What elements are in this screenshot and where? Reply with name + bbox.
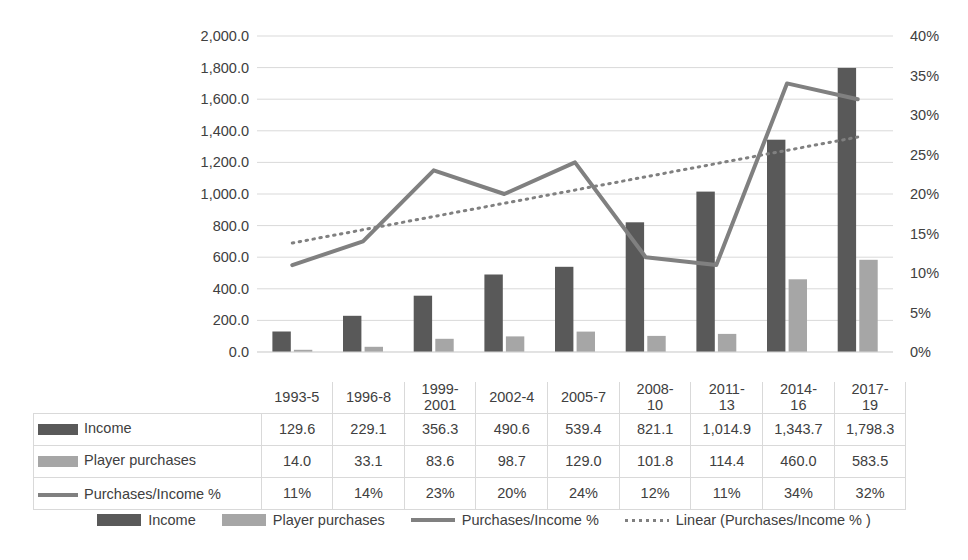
table-cell-value: 33.1 — [333, 446, 405, 478]
category-label: 2017-19 — [835, 382, 906, 413]
bar-income — [555, 267, 573, 352]
legend-item-label: Linear (Purchases/Income % ) — [676, 512, 871, 528]
bar-income — [272, 332, 290, 353]
bars-player-purchases — [294, 260, 878, 352]
bar-player-purchases — [859, 260, 877, 352]
legend-item: Player purchases — [222, 512, 385, 528]
bar-income — [838, 68, 856, 352]
table-cell-value: 129.0 — [548, 446, 620, 478]
category-label-line2: 2001 — [405, 398, 476, 414]
legend-item: Income — [97, 512, 196, 528]
category-label: 1996-8 — [333, 390, 404, 406]
table-cell-value: 23% — [404, 478, 476, 510]
legend-item-label: Income — [148, 512, 196, 528]
legend-swatch-income — [97, 514, 141, 526]
y-axis-left-tick: 0.0 — [169, 345, 249, 360]
category-label-line1: 1996-8 — [346, 389, 391, 405]
table-cell-value: 32% — [834, 478, 906, 510]
bar-player-purchases — [435, 339, 453, 352]
bars-income — [272, 68, 856, 352]
y-axis-right-tick: 5% — [910, 306, 968, 321]
table-cell-value: 98.7 — [476, 446, 548, 478]
category-label-line1: 2011- — [709, 381, 745, 397]
y-axis-left-tick: 200.0 — [169, 313, 249, 328]
table-cell-value: 229.1 — [333, 414, 405, 446]
table-cell-value: 114.4 — [691, 446, 763, 478]
table-header-row: 1993-51996-81999-20012002-42005-72008-10… — [34, 382, 906, 414]
table-header-corner — [34, 382, 262, 414]
table-header-cell-category: 2011-13 — [691, 382, 763, 414]
table-cell-value: 20% — [476, 478, 548, 510]
table-cell-value: 83.6 — [404, 446, 476, 478]
chart-canvas — [0, 0, 968, 380]
table-cell-value: 1,014.9 — [691, 414, 763, 446]
table-header-cell-category: 1993-5 — [262, 382, 333, 414]
bar-income — [484, 275, 502, 353]
table-row-label-text: Income — [84, 421, 132, 437]
bar-income — [414, 296, 432, 352]
category-label-line1: 1993-5 — [274, 389, 319, 405]
category-label-line2: 10 — [620, 398, 691, 414]
legend-item-label: Purchases/Income % — [462, 512, 599, 528]
table-cell-value: 24% — [548, 478, 620, 510]
category-label: 2011-13 — [691, 382, 762, 413]
table-cell-value: 14% — [333, 478, 405, 510]
category-label-line2: 13 — [691, 398, 762, 414]
chart-plot-area: 0.0200.0400.0600.0800.01,000.01,200.01,4… — [0, 0, 968, 380]
swatch-ratio-line — [38, 493, 78, 497]
y-axis-left-tick: 1,000.0 — [169, 187, 249, 202]
table-cell-value: 129.6 — [262, 414, 333, 446]
category-label-line1: 2008- — [637, 381, 674, 397]
table-row-label: Income — [38, 421, 132, 437]
table-row-label-text: Purchases/Income % — [84, 487, 221, 503]
y-axis-right-tick: 35% — [910, 69, 968, 84]
legend-swatch-ratio-line — [411, 518, 455, 522]
table-row-label-text: Player purchases — [84, 453, 196, 469]
legend-item-label: Player purchases — [273, 512, 385, 528]
legend-item: Purchases/Income % — [411, 512, 599, 528]
table-header-cell-category: 2017-19 — [834, 382, 906, 414]
category-label: 2002-4 — [476, 390, 547, 406]
bar-income — [767, 140, 785, 352]
y-axis-left-tick: 800.0 — [169, 219, 249, 234]
category-label: 2008-10 — [620, 382, 691, 413]
table-cell-value: 12% — [619, 478, 691, 510]
category-label-line1: 2014- — [780, 381, 817, 397]
y-axis-right-tick: 0% — [910, 345, 968, 360]
table-row-label-cell: Purchases/Income % — [34, 478, 262, 510]
table-cell-value: 34% — [763, 478, 835, 510]
table-row-label: Player purchases — [38, 453, 196, 469]
category-label-line1: 2017- — [852, 381, 889, 397]
table-header-cell-category: 2002-4 — [476, 382, 548, 414]
category-label: 1999-2001 — [405, 382, 476, 413]
y-axis-left-tick: 1,600.0 — [169, 92, 249, 107]
table-header-cell-category: 1999-2001 — [404, 382, 476, 414]
table-row: Player purchases14.033.183.698.7129.0101… — [34, 446, 906, 478]
y-axis-left-tick: 1,200.0 — [169, 155, 249, 170]
category-label: 2014-16 — [763, 382, 834, 413]
swatch-income — [38, 424, 78, 435]
category-label-line2: 19 — [835, 398, 906, 414]
table-cell-value: 1,343.7 — [763, 414, 835, 446]
y-axis-left-tick: 600.0 — [169, 250, 249, 265]
y-axis-left-tick: 2,000.0 — [169, 29, 249, 44]
category-label-line1: 2002-4 — [489, 389, 534, 405]
bar-player-purchases — [506, 336, 524, 352]
table-cell-value: 11% — [262, 478, 333, 510]
y-axis-right-tick: 30% — [910, 108, 968, 123]
y-axis-left-tick: 1,400.0 — [169, 124, 249, 139]
table-cell-value: 1,798.3 — [834, 414, 906, 446]
table-cell-value: 490.6 — [476, 414, 548, 446]
bar-player-purchases — [647, 336, 665, 352]
bar-income — [343, 316, 361, 352]
chart-page: 0.0200.0400.0600.0800.01,000.01,200.01,4… — [0, 0, 968, 560]
table-row-label: Purchases/Income % — [38, 487, 221, 503]
swatch-player-purchases — [38, 456, 78, 467]
y-axis-right-tick: 10% — [910, 266, 968, 281]
bar-player-purchases — [365, 347, 383, 352]
table-cell-value: 11% — [691, 478, 763, 510]
table-header-cell-category: 2008-10 — [619, 382, 691, 414]
table-cell-value: 821.1 — [619, 414, 691, 446]
legend-item: Linear (Purchases/Income % ) — [625, 512, 871, 528]
table-cell-value: 101.8 — [619, 446, 691, 478]
